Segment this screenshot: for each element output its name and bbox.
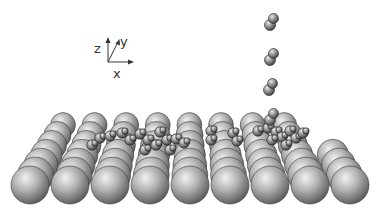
adsorbed-atom [156,140,162,146]
adsorbed-atom [110,131,116,137]
surface-atom [91,166,129,204]
adsorbed-atom [170,145,176,151]
crystal-surface [11,113,369,204]
adsorbed-atom [160,127,166,133]
desorbing-atom [268,79,278,89]
desorbing-atom [269,49,279,59]
surface-atom [291,166,329,204]
adsorbed-atom [233,128,239,134]
desorbing-molecule-trajectory [264,14,279,126]
adsorbed-atom [303,128,309,134]
surface-atom [171,166,209,204]
adsorbed-atom [211,135,217,141]
molecular-surface-figure: z y x [0,0,381,212]
surface-atom [131,166,169,204]
adsorbed-atom [148,135,154,141]
desorbing-atom [269,14,279,24]
surface-atom [331,166,369,204]
adsorbed-atom [211,126,217,132]
desorbing-atom [269,109,279,119]
y-axis-label: y [120,35,128,48]
adsorbed-atom [272,135,278,141]
adsorbed-atom [286,140,292,146]
y-axis-line [108,42,118,62]
adsorbed-atom [290,126,296,132]
surface-atom [211,166,249,204]
x-axis-label: x [113,67,121,80]
adsorbed-atom [140,129,146,135]
adsorbed-atom [122,128,128,134]
surface-atom [11,166,49,204]
adsorbed-atom [145,145,151,151]
adsorbed-atom [184,138,190,144]
surface-atom [251,166,289,204]
adsorbed-atom [237,136,243,142]
x-axis-arrow [128,60,134,65]
z-axis-label: z [94,42,101,55]
z-axis-arrow [106,37,111,43]
surface-render [0,0,381,212]
surface-atom [51,166,89,204]
